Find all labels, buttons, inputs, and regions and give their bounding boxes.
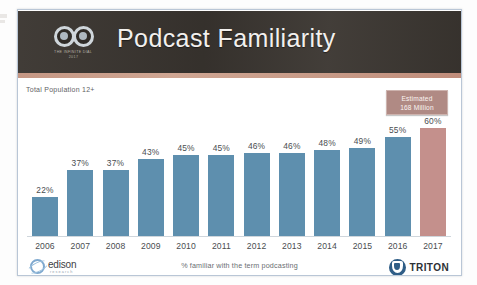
bar-value-label: 37% (72, 158, 89, 168)
slide-body: Total Population 12+ Estimated 168 Milli… (18, 78, 461, 274)
x-axis-label: 2010 (171, 241, 201, 251)
x-axis-label: 2016 (383, 241, 413, 251)
bar-series-container: 22%37%37%43%45%45%46%46%48%49%55%60% (30, 106, 448, 237)
edison-subtitle: research (50, 270, 74, 274)
callout-line-1: Estimated (401, 94, 432, 103)
triton-logo: TRITON (389, 256, 449, 276)
bar-value-label: 43% (142, 147, 159, 157)
bar-rect[interactable] (314, 150, 340, 237)
population-note: Total Population 12+ (26, 86, 95, 93)
edison-orbit-icon (28, 257, 49, 276)
bar-slot: 43% (136, 106, 166, 237)
bar-value-label: 45% (213, 143, 230, 153)
bar-value-label: 49% (354, 136, 371, 146)
photo-canvas: THE INFINITE DIAL 2017 Podcast Familiari… (0, 0, 477, 285)
logo-text-line1: THE INFINITE DIAL (54, 49, 92, 53)
x-axis-label: 2009 (136, 241, 166, 251)
edison-wordmark: edison (48, 259, 76, 270)
infinite-dial-logo: THE INFINITE DIAL 2017 (42, 17, 105, 67)
bar-rect[interactable] (173, 155, 199, 237)
slide-header: THE INFINITE DIAL 2017 Podcast Familiari… (18, 11, 461, 73)
logo-ring-right-pupil (79, 32, 87, 40)
bar-slot: 49% (347, 106, 377, 237)
x-axis-label: 2015 (347, 241, 377, 251)
bar-value-label: 55% (389, 125, 406, 135)
x-axis-label: 2008 (101, 241, 131, 251)
bar-chart-plot: 22%37%37%43%45%45%46%46%48%49%55%60% (30, 106, 448, 237)
x-axis-line (27, 236, 451, 237)
bar-rect[interactable] (279, 153, 305, 237)
bar-value-label: 60% (424, 116, 441, 126)
bar-rect[interactable] (385, 137, 411, 237)
triton-shield-icon (389, 259, 406, 276)
bar-slot: 60% (418, 106, 448, 237)
x-axis-label: 2006 (30, 241, 60, 251)
slide-footer: % familiar with the term podcasting The … (18, 256, 461, 276)
bar-rect[interactable] (103, 170, 129, 237)
x-axis-label: 2017 (418, 241, 448, 251)
x-axis-label: 2011 (206, 241, 236, 251)
bar-slot: 37% (65, 106, 95, 237)
page-title: Podcast Familiarity (117, 24, 336, 53)
logo-ring-right-icon (73, 26, 94, 47)
scan-artifact (0, 20, 5, 23)
bar-rect[interactable] (349, 148, 375, 237)
bar-slot: 46% (277, 106, 307, 237)
bar-value-label: 22% (36, 185, 53, 195)
bar-slot: 48% (312, 106, 342, 237)
logo-ring-left-pupil (60, 32, 68, 40)
x-axis-label: 2012 (242, 241, 272, 251)
bar-value-label: 37% (107, 158, 124, 168)
bar-value-label: 45% (177, 143, 194, 153)
scan-artifact (0, 14, 7, 18)
bar-rect[interactable] (32, 197, 58, 237)
bar-rect[interactable] (420, 128, 446, 237)
x-axis-label: 2007 (65, 241, 95, 251)
bar-value-label: 46% (248, 141, 265, 151)
bar-rect[interactable] (208, 155, 234, 237)
bar-slot: 45% (171, 106, 201, 237)
bar-value-label: 46% (283, 141, 300, 151)
triton-shield-core (394, 263, 401, 270)
bar-rect[interactable] (244, 153, 270, 237)
edison-research-logo: edison research (28, 256, 124, 276)
x-axis-labels: 2006200720082009201020112012201320142015… (30, 239, 448, 253)
infinity-rings-icon (54, 26, 94, 47)
presentation-slide: THE INFINITE DIAL 2017 Podcast Familiari… (17, 9, 462, 276)
bar-slot: 45% (206, 106, 236, 237)
bar-slot: 55% (383, 106, 413, 237)
bar-slot: 37% (101, 106, 131, 237)
bar-rect[interactable] (67, 170, 93, 237)
x-axis-label: 2013 (277, 241, 307, 251)
triton-wordmark: TRITON (410, 262, 449, 273)
bar-value-label: 48% (318, 138, 335, 148)
bar-slot: 46% (242, 106, 272, 237)
x-axis-label: 2014 (312, 241, 342, 251)
logo-text-line2: 2017 (69, 55, 79, 59)
logo-ring-left-icon (54, 26, 75, 47)
bar-slot: 22% (30, 106, 60, 237)
bar-rect[interactable] (138, 159, 164, 237)
